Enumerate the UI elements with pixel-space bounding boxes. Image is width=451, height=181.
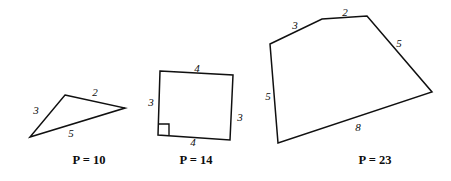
- worksheet-stage: 3 2 5 P = 10 4 3 3 4 P = 14 3 2 5 8 5 P …: [0, 0, 451, 181]
- figure-1-side-label: 2: [92, 87, 98, 98]
- figure-1-perimeter-caption: P = 10: [73, 154, 106, 167]
- figure-3-perimeter-caption: P = 23: [359, 154, 392, 167]
- figure-2-side-label: 4: [194, 63, 200, 74]
- figure-1-side-label: 5: [68, 128, 74, 139]
- figure-3-side-label: 2: [342, 7, 348, 18]
- figure-3-outline: [270, 16, 432, 143]
- figure-1-side-label: 3: [33, 105, 39, 116]
- figure-2-side-label: 4: [190, 137, 196, 148]
- figure-1-outline: [30, 95, 125, 137]
- figure-2-perimeter-caption: P = 14: [180, 154, 213, 167]
- figure-2-side-label: 3: [237, 112, 243, 123]
- right-angle-marker-icon: [158, 124, 169, 135]
- figure-3-side-label: 5: [396, 38, 402, 49]
- figure-3-side-label: 5: [265, 91, 271, 102]
- figure-2-side-label: 3: [148, 97, 154, 108]
- figure-3-side-label: 3: [292, 20, 298, 31]
- figure-3-side-label: 8: [355, 122, 361, 133]
